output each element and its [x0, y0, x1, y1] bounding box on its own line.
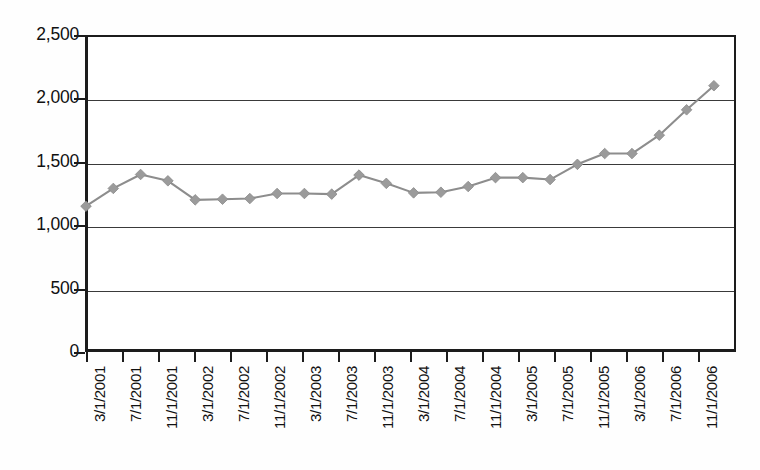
data-point-marker: [135, 169, 146, 180]
x-axis-tick-label: 11/1/2002: [272, 366, 287, 429]
x-axis-tick-label: 7/1/2002: [236, 366, 251, 422]
x-axis-tick-mark: [86, 352, 88, 362]
data-point-marker: [299, 188, 310, 199]
data-point-marker: [408, 188, 419, 199]
data-point-marker: [463, 181, 474, 192]
data-point-marker: [381, 178, 392, 189]
data-point-marker: [545, 174, 556, 185]
y-axis-tick-label: 1,000: [0, 216, 79, 234]
x-axis-tick-label: 3/1/2001: [92, 366, 107, 422]
data-point-marker: [436, 187, 447, 198]
y-axis-tick-mark: [74, 225, 85, 227]
x-axis-tick-label: 7/1/2001: [128, 366, 143, 422]
x-axis-tick-label: 3/1/2002: [200, 366, 215, 422]
y-axis-tick-mark: [74, 162, 85, 164]
x-axis-tick-mark: [446, 352, 448, 362]
y-axis-tick-mark: [74, 98, 85, 100]
data-point-marker: [272, 188, 283, 199]
x-axis-tick-mark: [230, 352, 232, 362]
x-axis-tick-mark: [302, 352, 304, 362]
x-axis-tick-mark: [698, 352, 700, 362]
data-point-marker: [81, 201, 92, 212]
data-series: [85, 35, 736, 352]
x-axis-tick-mark: [662, 352, 664, 362]
data-point-marker: [572, 159, 583, 170]
y-axis-tick-mark: [74, 289, 85, 291]
x-axis-tick-label: 3/1/2003: [308, 366, 323, 422]
x-axis-tick-label: 3/1/2006: [632, 366, 647, 422]
x-axis-tick-label: 11/1/2003: [380, 366, 395, 429]
data-point-marker: [245, 193, 256, 204]
x-axis-tick-mark: [374, 352, 376, 362]
x-axis-tick-label: 11/1/2004: [488, 366, 503, 429]
y-axis-tick-label: 0: [0, 343, 79, 361]
data-point-marker: [490, 172, 501, 183]
data-point-marker: [518, 172, 529, 183]
x-axis-tick-label: 11/1/2005: [596, 366, 611, 429]
y-axis-tick-label: 2,500: [0, 26, 79, 44]
y-axis-tick-label: 2,000: [0, 89, 79, 107]
x-axis-tick-mark: [266, 352, 268, 362]
x-axis-tick-mark: [590, 352, 592, 362]
y-axis-tick-label: 500: [0, 280, 79, 298]
data-point-marker: [108, 183, 119, 194]
data-point-marker: [217, 194, 228, 205]
x-axis-tick-mark: [554, 352, 556, 362]
x-axis-tick-mark: [626, 352, 628, 362]
x-axis-tick-label: 11/1/2006: [704, 366, 719, 429]
series-line: [86, 86, 714, 206]
x-axis-tick-mark: [482, 352, 484, 362]
x-axis-tick-mark: [194, 352, 196, 362]
x-axis-tick-label: 7/1/2004: [452, 366, 467, 422]
x-axis-tick-label: 3/1/2004: [416, 366, 431, 422]
y-axis-tick-label: 1,500: [0, 153, 79, 171]
x-axis-tick-mark: [518, 352, 520, 362]
x-axis-tick-label: 7/1/2005: [560, 366, 575, 422]
x-axis-tick-label: 3/1/2005: [524, 366, 539, 422]
x-axis-tick-label: 7/1/2003: [344, 366, 359, 422]
data-point-marker: [599, 148, 610, 159]
x-axis-tick-mark: [410, 352, 412, 362]
y-axis-tick-mark: [74, 35, 85, 37]
x-axis-tick-label: 7/1/2006: [668, 366, 683, 422]
x-axis-tick-mark: [122, 352, 124, 362]
chart-container: 05001,0001,5002,0002,500 3/1/20017/1/200…: [0, 0, 760, 470]
x-axis-tick-mark: [158, 352, 160, 362]
x-axis-tick-label: 11/1/2001: [164, 366, 179, 429]
x-axis-tick-mark: [338, 352, 340, 362]
y-axis-tick-mark: [74, 352, 85, 354]
